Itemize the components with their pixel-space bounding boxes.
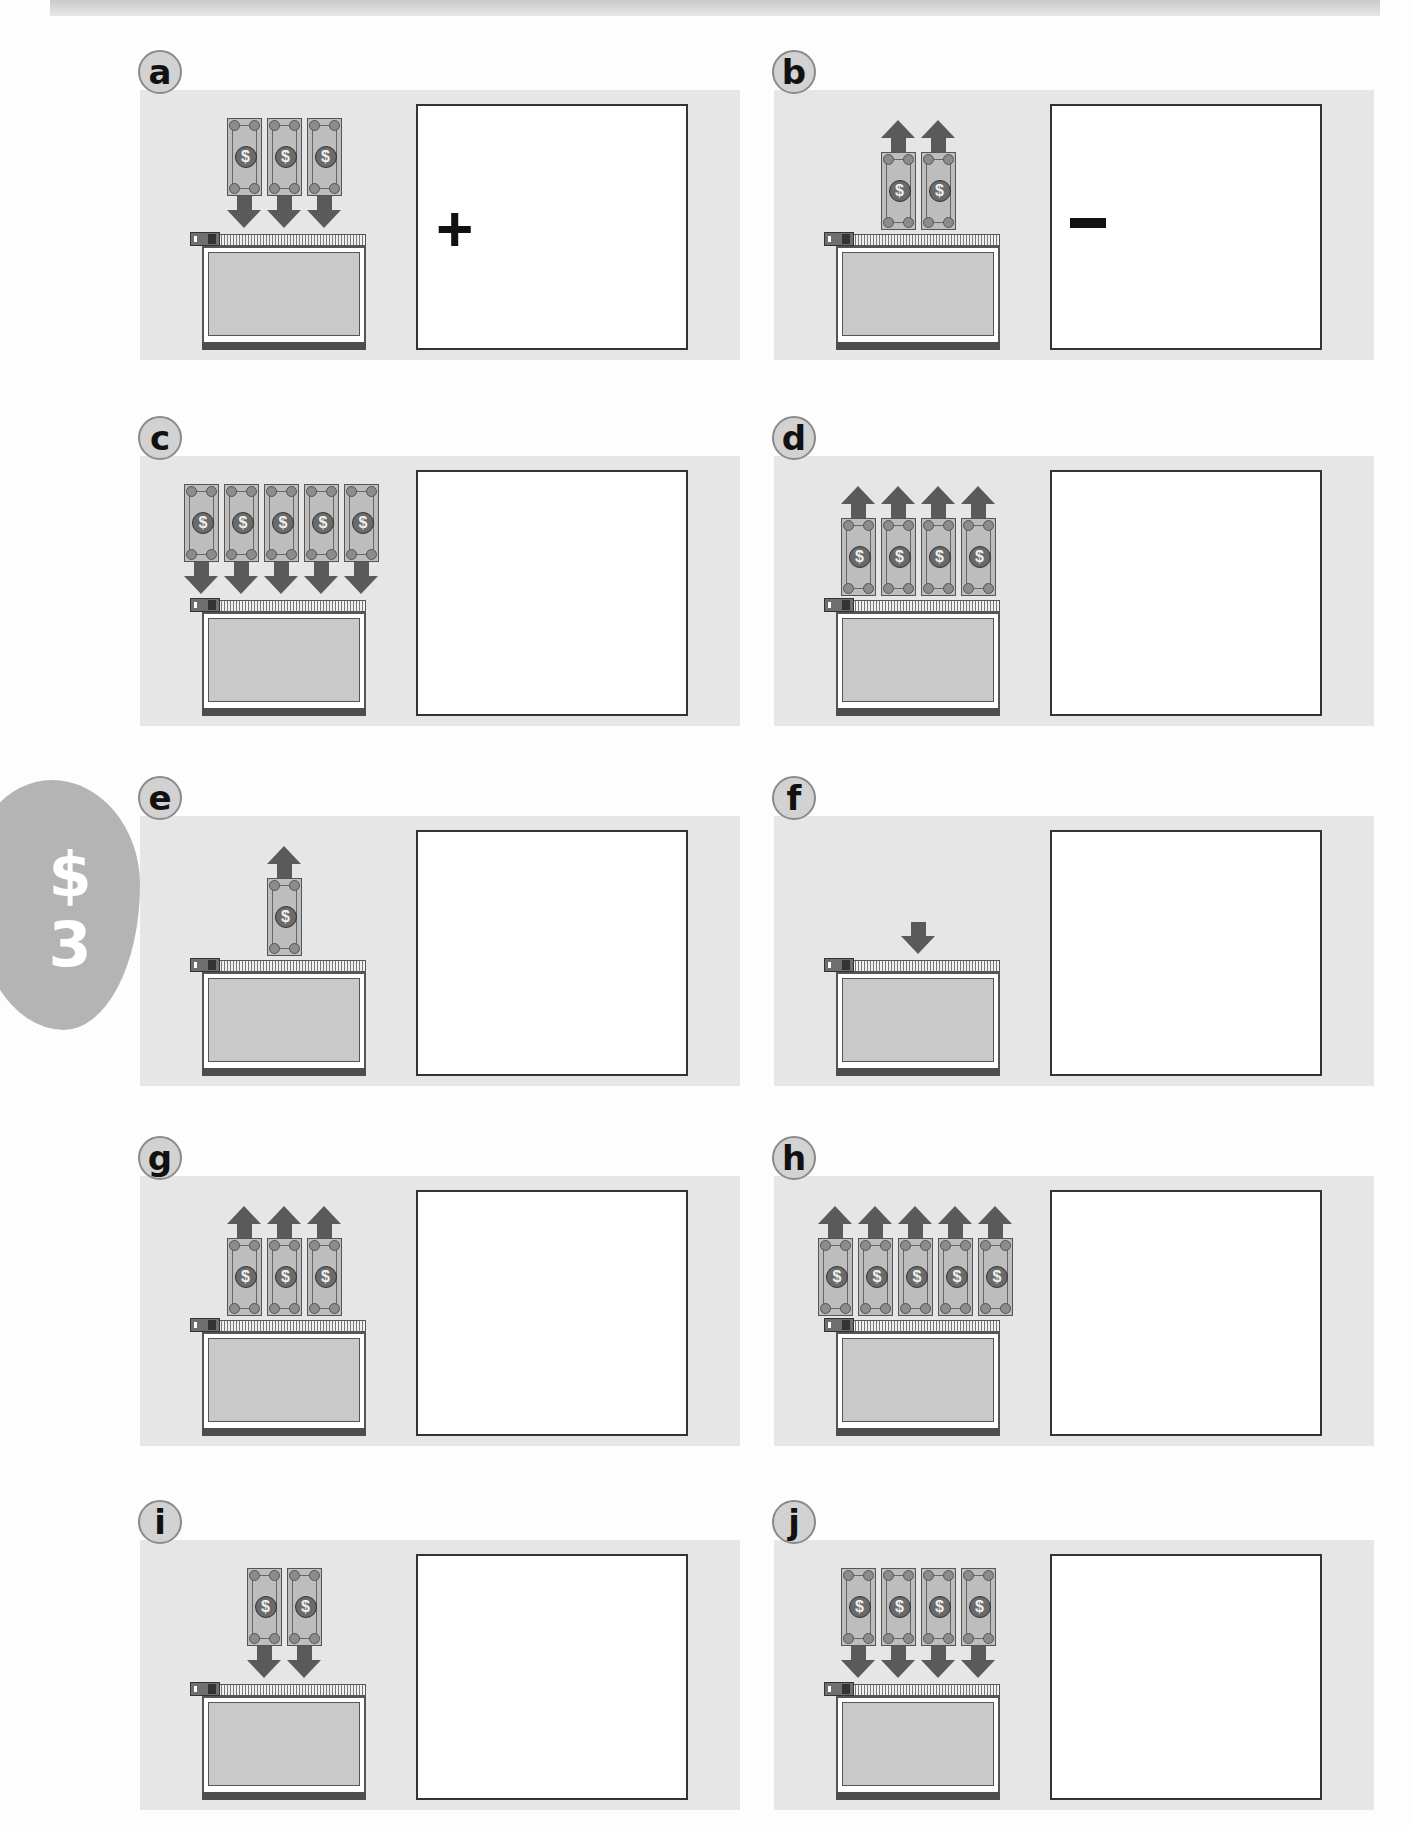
zipper-pull-icon — [190, 958, 220, 972]
problem-panel: $$$$ — [774, 456, 1374, 726]
problem-h: h$$$$$ — [772, 1136, 1382, 1466]
answer-box[interactable] — [416, 470, 688, 716]
answer-box[interactable] — [416, 1190, 688, 1436]
zipper-wallet-icon — [190, 1684, 366, 1802]
dollar-bill-icon: $ — [227, 1238, 262, 1316]
zipper-pull-icon — [190, 232, 220, 246]
zipper-pull-icon — [824, 1318, 854, 1332]
dollar-bill-icon: $ — [961, 1568, 996, 1646]
minus-sign — [1070, 218, 1106, 228]
arrow-down-icon — [304, 562, 339, 596]
arrow-up-icon — [881, 484, 916, 518]
arrow-up-icon — [267, 1204, 302, 1238]
problem-f: f — [772, 776, 1382, 1106]
zipper-wallet-icon — [824, 960, 1000, 1078]
dollar-bill-icon: $ — [264, 484, 299, 562]
dollar-bill-icon: $ — [287, 1568, 322, 1646]
dollar-bill-icon: $ — [247, 1568, 282, 1646]
bills-group: $$$ — [227, 1204, 342, 1316]
dollar-bill-icon: $ — [921, 518, 956, 596]
arrow-up-icon — [818, 1204, 853, 1238]
arrow-down-icon — [247, 1646, 282, 1680]
zipper-pull-icon — [824, 232, 854, 246]
problem-panel: $$$+ — [140, 90, 740, 360]
answer-box[interactable]: + — [416, 104, 688, 350]
dollar-bill-icon: $ — [898, 1238, 933, 1316]
answer-box[interactable] — [1050, 830, 1322, 1076]
arrow-up-icon — [227, 1204, 262, 1238]
zipper-pull-icon — [190, 1682, 220, 1696]
arrow-down-icon — [184, 562, 219, 596]
problem-panel: $$$ — [140, 1176, 740, 1446]
problem-panel: $$ — [140, 1540, 740, 1810]
cropped-instruction-banner — [50, 0, 1380, 16]
arrow-down-icon — [307, 196, 342, 230]
arrow-up-icon — [881, 118, 916, 152]
zipper-pull-icon — [190, 598, 220, 612]
problem-label-badge: c — [138, 416, 182, 460]
arrow-down-icon — [881, 1646, 916, 1680]
dollar-bill-icon: $ — [858, 1238, 893, 1316]
dollar-bill-icon: $ — [921, 152, 956, 230]
zipper-pull-icon — [824, 958, 854, 972]
problem-panel: $$$$ — [774, 1540, 1374, 1810]
bills-group: $$ — [247, 1568, 322, 1680]
dollar-bill-icon: $ — [881, 1568, 916, 1646]
arrow-up-icon — [267, 844, 302, 878]
plus-sign: + — [436, 204, 473, 254]
problem-j: j$$$$ — [772, 1500, 1382, 1826]
arrow-down-icon — [901, 922, 936, 956]
problem-d: d$$$$ — [772, 416, 1382, 746]
problem-panel: $$$$$ — [774, 1176, 1374, 1446]
arrow-down-icon — [921, 1646, 956, 1680]
arrow-down-icon — [961, 1646, 996, 1680]
bills-group — [901, 922, 936, 956]
dollar-bill-icon: $ — [304, 484, 339, 562]
bills-group: $$$$ — [841, 484, 996, 596]
problem-label-badge: e — [138, 776, 182, 820]
dollar-bill-icon: $ — [978, 1238, 1013, 1316]
zipper-wallet-icon — [824, 234, 1000, 352]
arrow-up-icon — [841, 484, 876, 518]
bills-group: $$$ — [227, 118, 342, 230]
problem-c: c$$$$$ — [138, 416, 748, 746]
arrow-down-icon — [841, 1646, 876, 1680]
problem-panel: $$$$$ — [140, 456, 740, 726]
zipper-pull-icon — [190, 1318, 220, 1332]
dollar-bill-icon: $ — [961, 518, 996, 596]
dollar-bill-icon: $ — [227, 118, 262, 196]
zipper-wallet-icon — [824, 1684, 1000, 1802]
answer-box[interactable] — [1050, 1190, 1322, 1436]
arrow-down-icon — [287, 1646, 322, 1680]
bills-group: $$$$ — [841, 1568, 996, 1680]
zipper-wallet-icon — [190, 600, 366, 718]
zipper-pull-icon — [824, 598, 854, 612]
answer-box[interactable] — [1050, 470, 1322, 716]
bills-group: $ — [267, 844, 302, 956]
arrow-down-icon — [224, 562, 259, 596]
problem-panel — [774, 816, 1374, 1086]
dollar-bill-icon: $ — [184, 484, 219, 562]
dollar-bill-icon: $ — [938, 1238, 973, 1316]
section-number: 3 — [20, 910, 120, 980]
answer-box[interactable] — [416, 1554, 688, 1800]
dollar-bill-icon: $ — [307, 118, 342, 196]
answer-box[interactable] — [1050, 1554, 1322, 1800]
bills-group: $$$$$ — [818, 1204, 1013, 1316]
answer-box[interactable] — [416, 830, 688, 1076]
dollar-bill-icon: $ — [267, 878, 302, 956]
problem-label-badge: i — [138, 1500, 182, 1544]
arrow-up-icon — [921, 484, 956, 518]
problem-b: b$$ — [772, 50, 1382, 380]
answer-box[interactable] — [1050, 104, 1322, 350]
section-tab-label: $ 3 — [20, 840, 120, 980]
dollar-bill-icon: $ — [224, 484, 259, 562]
dollar-bill-icon: $ — [921, 1568, 956, 1646]
dollar-icon: $ — [20, 840, 120, 910]
problem-label-badge: h — [772, 1136, 816, 1180]
arrow-up-icon — [898, 1204, 933, 1238]
dollar-bill-icon: $ — [267, 1238, 302, 1316]
problem-panel: $$ — [774, 90, 1374, 360]
dollar-bill-icon: $ — [818, 1238, 853, 1316]
zipper-wallet-icon — [190, 960, 366, 1078]
